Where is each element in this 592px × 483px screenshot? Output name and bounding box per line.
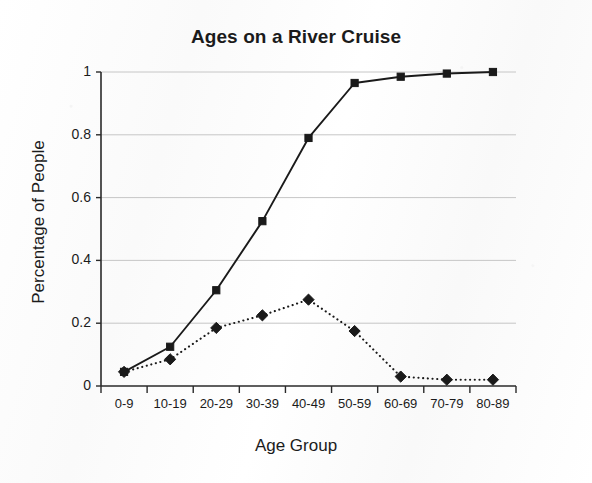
y-tick-label: 0	[45, 377, 91, 393]
axes	[101, 72, 516, 386]
data-point-marker	[487, 374, 498, 385]
y-tick-label: 0.2	[45, 314, 91, 330]
data-point-marker	[305, 134, 312, 141]
series-line-0	[124, 72, 493, 372]
data-point-marker	[257, 310, 268, 321]
data-point-marker	[259, 218, 266, 225]
gridlines	[101, 72, 516, 323]
data-point-marker	[351, 79, 358, 86]
x-tick-label: 40-49	[292, 396, 325, 411]
data-point-marker	[303, 294, 314, 305]
chart-figure: Ages on a River Cruise Percentage of Peo…	[0, 0, 592, 483]
data-point-marker	[167, 343, 174, 350]
x-tick-label: 20-29	[200, 396, 233, 411]
axis-ticks	[96, 72, 516, 393]
x-tick-label: 50-59	[338, 396, 371, 411]
series-lines	[124, 72, 493, 380]
y-tick-label: 1	[45, 63, 91, 79]
x-tick-label: 0-9	[115, 396, 134, 411]
data-point-marker	[441, 374, 452, 385]
data-point-marker	[443, 70, 450, 77]
y-tick-label: 0.4	[45, 251, 91, 267]
x-tick-label: 70-79	[430, 396, 463, 411]
x-tick-label: 60-69	[384, 396, 417, 411]
x-tick-label: 80-89	[476, 396, 509, 411]
data-point-marker	[397, 73, 404, 80]
series-markers	[118, 68, 498, 385]
y-tick-label: 0.6	[45, 189, 91, 205]
x-tick-label: 10-19	[154, 396, 187, 411]
x-tick-label: 30-39	[246, 396, 279, 411]
data-point-marker	[349, 325, 360, 336]
data-point-marker	[489, 68, 496, 75]
data-point-marker	[211, 322, 222, 333]
series-line-1	[124, 300, 493, 380]
data-point-marker	[213, 287, 220, 294]
y-tick-label: 0.8	[45, 126, 91, 142]
data-point-marker	[165, 354, 176, 365]
